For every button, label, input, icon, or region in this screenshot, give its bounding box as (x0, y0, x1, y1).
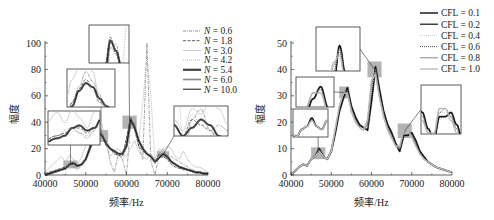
legend-label: N = 6.0 (203, 75, 233, 85)
y-tick-label: 50 (277, 38, 287, 49)
y-tick-label: 0 (282, 170, 287, 181)
legend-label: CFL = 0.6 (441, 42, 480, 52)
x-tick-label: 50000 (319, 178, 344, 189)
x-tick-label: 60000 (114, 178, 139, 189)
x-tick-label: 50000 (73, 178, 98, 189)
zoom-inset (421, 85, 461, 142)
y-tick-label: 10 (277, 143, 287, 154)
x-axis-label: 频率/Hz (109, 196, 144, 208)
figure: 4000050000600007000080000020406080100频率/… (0, 0, 494, 220)
y-axis-label: 幅度 (8, 104, 20, 124)
inset-leader-line (405, 110, 421, 131)
x-tick-label: 80000 (196, 178, 221, 189)
left-chart-panel: 4000050000600007000080000020406080100频率/… (8, 0, 237, 208)
legend-label: N = 10.0 (203, 85, 237, 95)
zoom-inset (293, 109, 328, 137)
y-tick-label: 40 (277, 64, 287, 75)
legend-label: CFL = 0.2 (441, 20, 480, 30)
inset-leader-line (129, 63, 130, 122)
y-tick-label: 0 (36, 170, 41, 181)
legend-label: N = 5.4 (203, 65, 233, 75)
y-tick-label: 30 (277, 90, 287, 101)
legend-label: CFL = 1.0 (441, 64, 480, 74)
legend-label: N = 4.2 (203, 55, 233, 65)
legend-label: CFL = 0.1 (441, 8, 480, 18)
y-tick-label: 100 (26, 38, 41, 49)
y-tick-label: 40 (31, 117, 41, 128)
legend-label: N = 0.6 (203, 26, 233, 36)
y-axis-label: 幅度 (254, 104, 266, 124)
x-tick-label: 80000 (440, 178, 465, 189)
legend-label: CFL = 0.8 (441, 53, 480, 63)
y-tick-label: 20 (277, 117, 287, 128)
legend-label: N = 3.0 (203, 46, 233, 56)
x-tick-label: 70000 (155, 178, 180, 189)
legend-label: CFL = 0.4 (441, 31, 480, 41)
x-axis-label: 频率/Hz (354, 196, 389, 208)
y-tick-label: 80 (31, 64, 41, 75)
inset-leader-line (360, 49, 375, 69)
y-tick-label: 20 (31, 143, 41, 154)
right-chart-panel: 400005000060000700008000001020304050频率/H… (254, 8, 480, 208)
y-tick-label: 60 (31, 90, 41, 101)
x-tick-label: 60000 (359, 178, 384, 189)
x-tick-label: 70000 (399, 178, 424, 189)
legend-label: N = 1.8 (203, 36, 233, 46)
